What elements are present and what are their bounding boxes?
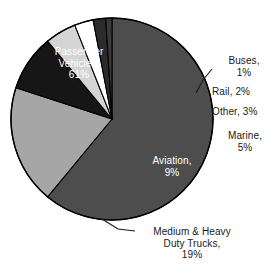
slice-label-rail: Rail, 2% [212, 86, 274, 98]
slice-label-passenger-vehicles: Passenger Vehicles, 61% [32, 46, 126, 81]
slice-label-aviation: Aviation, 9% [136, 155, 208, 178]
slice-label-other: Other, 3% [212, 106, 276, 118]
leader-line-trucks [102, 219, 135, 231]
slice-label-buses: Buses, 1% [214, 55, 274, 78]
pie-chart: Passenger Vehicles, 61% Aviation, 9% Med… [0, 0, 276, 274]
slice-label-marine: Marine, 5% [216, 130, 274, 153]
slice-label-medium-heavy-duty-trucks: Medium & Heavy Duty Trucks, 19% [136, 226, 248, 261]
